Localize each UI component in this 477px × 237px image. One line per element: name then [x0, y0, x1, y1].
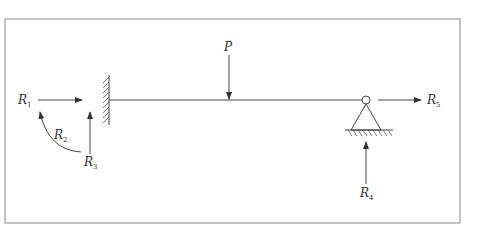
reaction-r2: R2	[40, 112, 81, 152]
fixed-support	[103, 75, 109, 125]
r5-label: R5	[426, 93, 441, 109]
r4-label: R4	[359, 186, 374, 202]
r3-label: R3	[83, 155, 98, 171]
load-label: P	[223, 40, 233, 54]
reaction-r4: R4	[359, 142, 374, 202]
reaction-r3: R3	[83, 112, 98, 171]
ground-hatch	[348, 130, 392, 136]
diagram-frame	[5, 19, 460, 223]
reaction-r5: R5	[378, 93, 441, 109]
r2-label: R2	[53, 128, 68, 144]
pin-support	[345, 96, 393, 136]
r1-label: R1	[17, 93, 32, 109]
load-p: P	[223, 40, 233, 99]
pin-circle	[362, 96, 370, 104]
support-triangle	[351, 104, 381, 130]
reaction-r1: R1	[17, 93, 82, 109]
beam-diagram: P R1 R2 R3 R4	[0, 0, 477, 237]
